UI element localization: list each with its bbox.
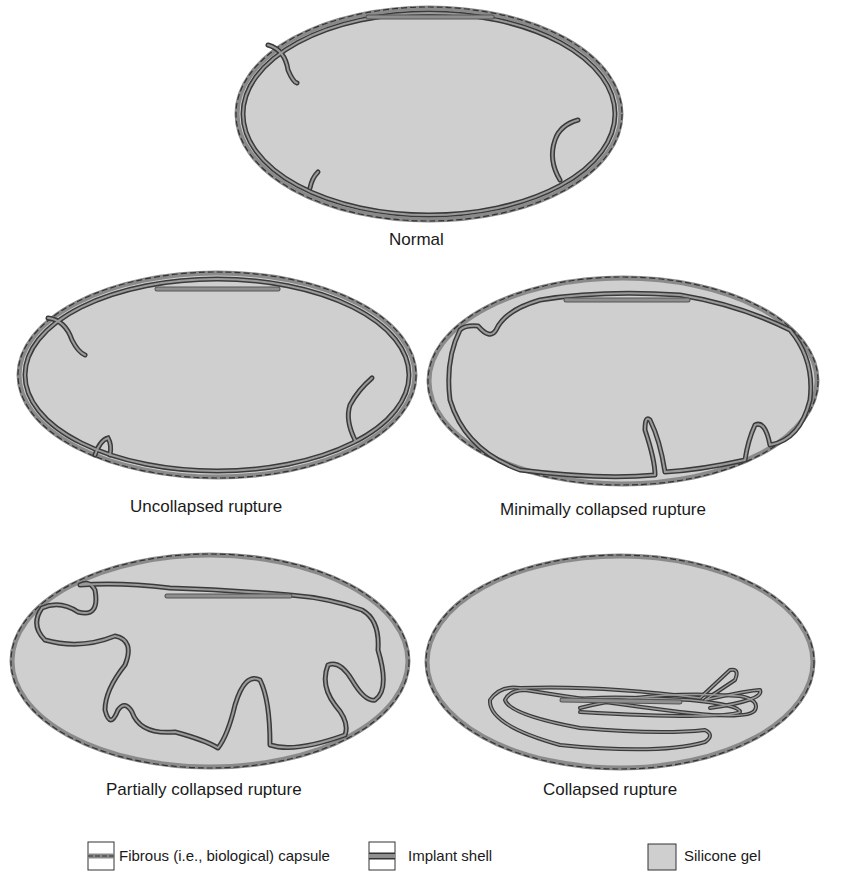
legend-capsule-icon (88, 842, 114, 870)
panel-collapsed (426, 555, 814, 769)
caption-minimally-collapsed: Minimally collapsed rupture (500, 500, 706, 520)
legend-label-implant-shell: Implant shell (408, 847, 492, 864)
legend-label-silicone-gel: Silicone gel (684, 847, 761, 864)
panel-normal (236, 7, 622, 221)
panel-minimally-collapsed (428, 277, 818, 485)
panel-uncollapsed (18, 272, 416, 478)
caption-partially-collapsed: Partially collapsed rupture (106, 780, 302, 800)
gel-region (429, 558, 811, 766)
caption-normal: Normal (389, 230, 444, 250)
legend-implant-shell-icon (369, 842, 395, 870)
panel-partially-collapsed (11, 554, 409, 768)
caption-collapsed: Collapsed rupture (543, 780, 677, 800)
legend-label-capsule: Fibrous (i.e., biological) capsule (119, 847, 330, 864)
legend-silicone-gel-swatch (648, 844, 676, 870)
gel-region (21, 275, 413, 475)
diagram-canvas (0, 0, 846, 873)
caption-uncollapsed: Uncollapsed rupture (130, 497, 282, 517)
